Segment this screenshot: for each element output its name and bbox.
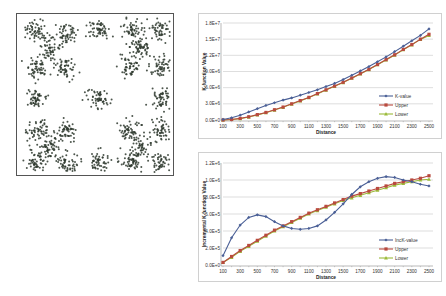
point-pattern-scatter bbox=[16, 13, 174, 176]
x-tick-label: 2500 bbox=[424, 124, 435, 129]
legend-item: Upper bbox=[379, 103, 408, 108]
y-tick-label: 1.0E+6 bbox=[205, 178, 220, 183]
x-tick-label: 900 bbox=[288, 124, 296, 129]
x-tick-label: 100 bbox=[219, 124, 227, 129]
y-tick-label: 4.0E+5 bbox=[205, 229, 220, 234]
x-tick-label: 2300 bbox=[407, 269, 418, 274]
y-tick-label: 1.2E+7 bbox=[205, 53, 220, 58]
series-lower bbox=[221, 33, 431, 121]
y-axis-title: Incremental K-function Value bbox=[202, 181, 207, 247]
x-tick-label: 100 bbox=[219, 269, 227, 274]
k-function-chart: 0.0E+03.0E+66.0E+69.0E+61.2E+71.5E+71.8E… bbox=[198, 13, 442, 139]
y-tick-label: 0.0E+0 bbox=[205, 118, 220, 123]
x-tick-label: 1300 bbox=[321, 124, 332, 129]
y-axis-title: K-function Value bbox=[202, 52, 207, 90]
y-tick-label: 2.0E+5 bbox=[205, 246, 220, 251]
series-inck-value bbox=[221, 175, 430, 257]
y-tick-label: 3.0E+6 bbox=[205, 101, 220, 106]
legend-label: Upper bbox=[395, 247, 408, 252]
x-tick-label: 700 bbox=[271, 124, 279, 129]
x-tick-label: 1300 bbox=[321, 269, 332, 274]
legend-item: Lower bbox=[379, 112, 408, 117]
legend-item: K-value bbox=[379, 94, 412, 99]
y-tick-label: 6.0E+5 bbox=[205, 212, 220, 217]
x-tick-label: 2300 bbox=[407, 124, 418, 129]
scatter-plot bbox=[17, 14, 172, 174]
x-tick-label: 500 bbox=[253, 269, 261, 274]
scatter-points bbox=[21, 17, 171, 173]
x-tick-label: 700 bbox=[271, 269, 279, 274]
k-function-plot: 0.0E+03.0E+66.0E+69.0E+61.2E+71.5E+71.8E… bbox=[199, 14, 441, 138]
y-tick-label: 9.0E+6 bbox=[205, 69, 220, 74]
y-tick-label: 1.2E+6 bbox=[205, 161, 220, 166]
x-tick-label: 300 bbox=[236, 124, 244, 129]
legend-item: IncK-value bbox=[379, 238, 418, 243]
y-tick-label: 0.0E+0 bbox=[205, 263, 220, 268]
legend-label: Lower bbox=[395, 112, 408, 117]
x-tick-label: 1500 bbox=[338, 124, 349, 129]
x-tick-label: 1900 bbox=[372, 124, 383, 129]
y-tick-label: 8.0E+5 bbox=[205, 195, 220, 200]
x-tick-label: 1700 bbox=[355, 269, 366, 274]
x-tick-label: 1700 bbox=[355, 124, 366, 129]
y-tick-label: 1.5E+7 bbox=[205, 37, 220, 42]
legend-label: Upper bbox=[395, 103, 408, 108]
x-tick-label: 500 bbox=[253, 124, 261, 129]
x-axis-title: Distance bbox=[316, 130, 336, 135]
legend-label: K-value bbox=[395, 94, 412, 99]
x-axis-title: Distance bbox=[316, 275, 336, 280]
x-tick-label: 1500 bbox=[338, 269, 349, 274]
x-tick-label: 1900 bbox=[372, 269, 383, 274]
x-tick-label: 2100 bbox=[390, 124, 401, 129]
x-tick-label: 900 bbox=[288, 269, 296, 274]
series-upper bbox=[221, 33, 430, 122]
x-tick-label: 1100 bbox=[304, 124, 314, 129]
x-tick-label: 2500 bbox=[424, 269, 435, 274]
incremental-k-function-chart: 0.0E+02.0E+54.0E+56.0E+58.0E+51.0E+61.2E… bbox=[198, 152, 442, 282]
x-tick-label: 2100 bbox=[390, 269, 401, 274]
legend-item: Upper bbox=[379, 247, 408, 252]
legend-label: Lower bbox=[395, 256, 408, 261]
y-tick-label: 1.8E+7 bbox=[205, 21, 220, 26]
x-tick-label: 300 bbox=[236, 269, 244, 274]
legend-item: Lower bbox=[379, 256, 408, 261]
incremental-k-function-plot: 0.0E+02.0E+54.0E+56.0E+58.0E+51.0E+61.2E… bbox=[199, 153, 441, 281]
y-tick-label: 6.0E+6 bbox=[205, 85, 220, 90]
legend-label: IncK-value bbox=[395, 238, 418, 243]
x-tick-label: 1100 bbox=[304, 269, 314, 274]
